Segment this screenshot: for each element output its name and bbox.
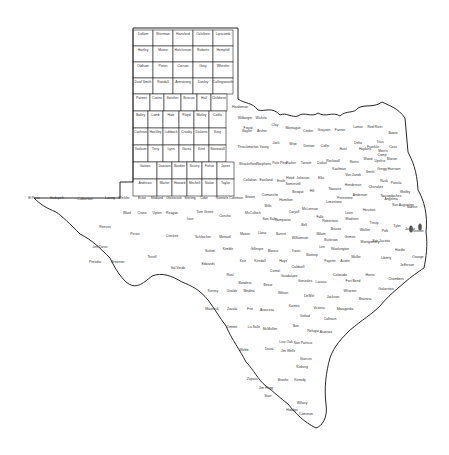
county-label: Llano: [258, 231, 266, 235]
county-label: Burnet: [276, 232, 286, 236]
county-label: Gonzales: [298, 279, 313, 283]
county-label: Hudspeth: [50, 196, 65, 200]
county-label: Eastland: [259, 178, 272, 182]
county-label: Lamar: [353, 125, 363, 129]
county-label: Delta: [354, 141, 362, 145]
county-label: Cottle: [213, 113, 222, 117]
county-label: Victoria: [313, 306, 324, 310]
county-label: Calhoun: [324, 317, 337, 321]
county-label: DeWitt: [304, 294, 314, 298]
texas-county-map: DallamShermanHansfordOchiltreeLipscombHa…: [0, 0, 449, 455]
county-label: Limestone: [326, 200, 342, 204]
county-label: Loving: [105, 196, 115, 200]
county-label: Caldwell: [292, 265, 305, 269]
county-label: Lamb: [151, 113, 160, 117]
county-label: Jack: [273, 141, 280, 145]
county-label: Coryell: [289, 210, 300, 214]
county-label: McCulloch: [245, 211, 261, 215]
county-label: Waller: [351, 255, 361, 259]
county-label: Swisher: [166, 96, 179, 100]
county-label: Somervell: [285, 182, 300, 186]
county-label: Ochiltree: [196, 32, 210, 36]
county-label: Reeves: [99, 225, 111, 229]
county-label: Throckmorton: [238, 145, 259, 149]
county-label: Ector: [138, 196, 147, 200]
county-label: Crane: [137, 211, 146, 215]
county-label: Glasscock: [166, 196, 182, 200]
county-label: Coleman: [229, 196, 243, 200]
county-label: Concho: [219, 214, 231, 218]
county-label: Wood: [364, 157, 373, 161]
county-label: Armstrong: [175, 80, 191, 84]
county-label: Sutton: [205, 249, 215, 253]
county-label: Brewster: [111, 260, 125, 264]
county-label: Fort Bend: [346, 279, 361, 283]
county-label: Rockwall: [326, 159, 340, 163]
county-label: Mitchell: [189, 181, 201, 185]
county-label: Kinney: [208, 289, 219, 293]
county-label: Harris: [365, 273, 374, 277]
county-label: Stonewall: [210, 147, 225, 151]
county-label: Milam: [316, 232, 325, 236]
county-label: Hockley: [149, 130, 161, 134]
county-label: Martin: [160, 181, 170, 185]
county-label: Lipscomb: [216, 32, 231, 36]
county-label: Gaines: [140, 164, 151, 168]
county-label: Clay: [272, 123, 279, 127]
county-label: Jefferson: [400, 263, 414, 267]
county-label: Johnson: [297, 176, 310, 180]
county-label: Grimes: [345, 235, 356, 239]
county-label: Kaufman: [332, 167, 346, 171]
county-label: Brown: [245, 195, 255, 199]
county-label: Oldham: [137, 64, 149, 68]
county-label: Houston: [363, 208, 376, 212]
county-label: Collin: [321, 144, 330, 148]
county-label: El Paso: [28, 196, 40, 200]
county-label: Foard: [244, 126, 253, 130]
county-label: Wheeler: [217, 64, 230, 68]
county-label: Duval: [265, 347, 274, 351]
county-label: Dawson: [158, 164, 170, 168]
county-label: Bastrop: [306, 253, 318, 257]
county-label: Robertson: [322, 219, 338, 223]
county-label: Maverick: [205, 307, 219, 311]
county-label: Van Zandt: [345, 173, 360, 177]
county-label: Moore: [158, 48, 168, 52]
county-label: Hardeman: [232, 105, 248, 109]
county-label: Madison: [346, 217, 359, 221]
county-label: Runnels: [216, 196, 229, 200]
county-label: Gray: [199, 64, 207, 68]
county-label: Coke: [200, 196, 208, 200]
county-label: Shackelford: [239, 162, 257, 166]
county-label: Ellis: [318, 176, 325, 180]
county-label: Hardin: [395, 248, 405, 252]
county-label: Zavala: [227, 307, 237, 311]
county-label: Smith: [366, 170, 375, 174]
county-label: Hansford: [176, 32, 190, 36]
county-label: Gillespie: [250, 247, 263, 251]
county-label: Guadalupe: [281, 274, 298, 278]
county-label: Scurry: [190, 164, 200, 168]
county-label: Polk: [382, 229, 389, 233]
county-label: Comanche: [262, 193, 279, 197]
county-label: Bosque: [292, 190, 304, 194]
county-label: Schleicher: [195, 235, 212, 239]
county-label: Colorado: [333, 273, 347, 277]
county-label: Blanco: [268, 249, 278, 253]
county-label: La Salle: [248, 325, 260, 329]
county-label: McLennan: [302, 207, 318, 211]
county-label: Brooks: [278, 378, 289, 382]
county-label: Hays: [279, 259, 287, 263]
county-label: Refugio: [307, 329, 319, 333]
county-label: Camp: [377, 153, 386, 157]
county-label: Shelby: [400, 190, 411, 194]
county-label: San Saba: [263, 217, 278, 221]
county-label: Lavaca: [316, 280, 327, 284]
county-label: Real: [227, 273, 234, 277]
county-label: Sterling: [184, 196, 196, 200]
county-label: Bowie: [388, 131, 397, 135]
county-label: Ward: [123, 211, 131, 215]
county-label: Reagan: [166, 211, 178, 215]
county-label: Fisher: [205, 164, 215, 168]
county-label: Red River: [367, 125, 383, 129]
